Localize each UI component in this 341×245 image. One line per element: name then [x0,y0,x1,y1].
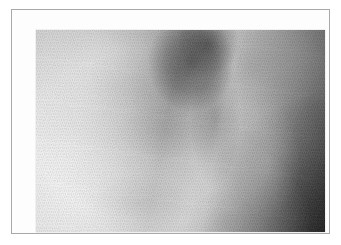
photo-vignette [36,30,325,232]
page-canvas: Grayscale close-up texture photograph of… [0,0,341,245]
image-frame: Grayscale close-up texture photograph of… [11,9,330,234]
texture-photograph: Grayscale close-up texture photograph of… [36,30,325,232]
